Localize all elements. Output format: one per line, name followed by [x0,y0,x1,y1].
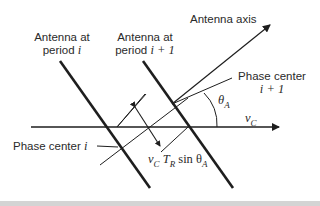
antenna-i-var: i [78,43,81,57]
theta-subscript: A [224,100,230,110]
antenna-i-label: Antenna at period i [30,31,94,57]
phase-center-i-label: Phase center i [13,140,87,153]
baseline-sin: sin θ [175,152,202,166]
antenna-i1-label: Antenna at period i + 1 [110,31,180,57]
separation-line-top [117,94,146,127]
phase-center-i1-label: Phase center i + 1 [236,70,308,96]
velocity-subscript: C [251,118,257,128]
antenna-i-label-line1: Antenna at [30,31,94,44]
antenna-i1-line [143,61,233,188]
baseline-v-sub: C [154,159,160,169]
antenna-i1-var: i + 1 [150,43,174,57]
antenna-i1-period-text: period [115,44,150,56]
separation-line-bottom [161,127,188,152]
baseline-t: T [163,152,170,166]
baseline-formula-label: vC TR sin θA [148,152,207,169]
antenna-i-period-text: period [43,44,78,56]
baseline-sin-sub: A [202,159,208,169]
footer-bar [0,201,320,206]
velocity-label: vC [245,111,257,128]
antenna-i-line [60,61,150,188]
theta-a-label: θA [218,93,230,110]
phase-center-i-var: i [84,139,87,153]
antenna-axis-label: Antenna axis [190,13,257,26]
antenna-i1-label-line2: period i + 1 [110,44,180,57]
theta-angle-arc [204,93,217,127]
phase-center-i-text: Phase center [13,140,84,152]
phase-center-i1-line2: i + 1 [236,83,308,96]
antenna-i-label-line2: period i [30,44,94,57]
